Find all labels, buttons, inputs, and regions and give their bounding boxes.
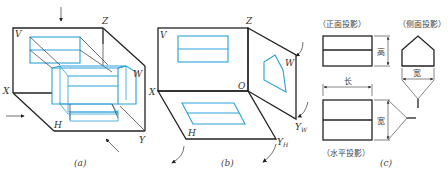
rotate-arrow-w-bottom-icon	[298, 102, 308, 117]
height-label: 高	[377, 47, 385, 57]
length-label: 长	[344, 76, 352, 86]
top-view-title: （水平投影）	[322, 148, 370, 158]
label-yw: YW	[295, 122, 308, 133]
panel-b-unfolded-planes: V Z X O W H YW YH (b)	[148, 16, 308, 168]
label-x: X	[2, 86, 10, 96]
label-v-b: V	[160, 30, 168, 40]
three-view-projection-diagram: V Z X W H Y (a) V Z X O W H YW	[0, 0, 448, 176]
front-view	[323, 36, 372, 66]
arrow-side-icon	[106, 139, 119, 152]
label-yh: YH	[277, 137, 289, 148]
rotate-arrow-h-left-icon	[172, 146, 184, 163]
caption-c: (c)	[380, 158, 393, 168]
side-view	[402, 36, 434, 66]
label-z: Z	[101, 16, 109, 26]
caption-b: (b)	[221, 158, 234, 168]
width-side-label: 宽	[413, 68, 421, 78]
side-view-title: （侧面投影）	[398, 19, 446, 29]
label-w-b: W	[285, 58, 295, 68]
panel-c-three-views: （正面投影） （侧面投影） （水平投影） 高 宽 长 宽	[318, 19, 446, 168]
h-plane	[13, 93, 54, 131]
label-h: H	[53, 120, 62, 130]
w-plane	[103, 28, 145, 66]
label-o-b: O	[238, 81, 246, 91]
label-v: V	[15, 29, 23, 39]
width-top-label: 宽	[377, 116, 385, 126]
panel-a-projection-box: V Z X W H Y (a)	[2, 7, 146, 168]
rotate-arrow-h-right-icon	[263, 144, 276, 162]
label-z-b: Z	[245, 16, 253, 26]
label-w: W	[133, 69, 143, 79]
h-plane-b	[158, 91, 276, 139]
caption-a: (a)	[74, 158, 87, 168]
v-plane	[13, 28, 103, 93]
front-view-title: （正面投影）	[318, 19, 366, 29]
w-plane-b	[248, 28, 296, 119]
label-y: Y	[139, 135, 146, 145]
label-x-b: X	[148, 87, 156, 97]
v-plane-b	[158, 28, 248, 91]
rotate-arrow-w-top-icon	[296, 42, 303, 56]
label-h-b: H	[187, 128, 196, 138]
